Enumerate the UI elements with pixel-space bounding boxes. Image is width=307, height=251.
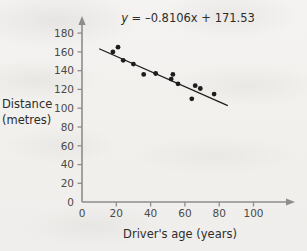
y-axis-title: Distance (metres) [2, 97, 52, 127]
x-axis-title: Driver's age (years) [123, 227, 237, 241]
y-tick-80: 80 [61, 121, 82, 133]
y-tick-label: 160 [54, 46, 74, 58]
x-tick-60: 60 [178, 202, 191, 219]
data-point [169, 77, 174, 82]
y-tick-180: 180 [54, 27, 82, 39]
scatter-chart-figure: 180 160 140 120 100 80 [0, 0, 307, 251]
x-tick-0: 0 [79, 207, 86, 219]
y-tick-0: 0 [67, 196, 74, 208]
trend-line-of-best-fit [99, 49, 228, 106]
data-point [116, 45, 121, 50]
x-tick-40: 40 [144, 202, 157, 219]
x-axis-arrow-icon [286, 198, 295, 205]
y-tick-label: 40 [61, 158, 74, 170]
y-tick-100: 100 [54, 102, 82, 114]
x-tick-80: 80 [213, 202, 226, 219]
y-tick-label: 100 [54, 102, 74, 114]
y-tick-label: 140 [54, 64, 74, 76]
y-tick-40: 40 [61, 158, 82, 170]
x-tick-20: 20 [110, 202, 123, 219]
data-point [189, 96, 194, 101]
equation-variable: y [120, 11, 128, 25]
x-tick-label: 40 [144, 207, 157, 219]
scatter-points-group [111, 45, 217, 101]
regression-equation-annotation: y = –0.8106x + 171.53 [120, 11, 255, 25]
y-axis-title-line1: Distance [2, 97, 52, 111]
data-point [121, 58, 126, 63]
chart-canvas: 180 160 140 120 100 80 [0, 0, 307, 251]
y-tick-60: 60 [61, 140, 82, 152]
data-point [111, 50, 116, 55]
x-tick-label: 0 [79, 207, 86, 219]
y-axis-arrow-icon [78, 16, 85, 25]
data-point [176, 81, 181, 86]
x-tick-100: 100 [243, 202, 263, 219]
y-tick-140: 140 [54, 64, 82, 76]
y-tick-120: 120 [54, 83, 82, 95]
data-point [141, 72, 146, 77]
y-axis-ticks: 180 160 140 120 100 80 [54, 27, 82, 208]
x-axis [82, 198, 295, 205]
y-axis [78, 16, 85, 202]
x-tick-label: 100 [243, 207, 263, 219]
y-tick-label: 180 [54, 27, 74, 39]
data-point [198, 86, 203, 91]
y-tick-20: 20 [61, 177, 82, 189]
data-point [212, 92, 217, 97]
x-axis-ticks: 0 20 40 60 80 100 [79, 202, 264, 219]
y-tick-label: 60 [61, 140, 74, 152]
x-tick-label: 80 [213, 207, 226, 219]
y-tick-label: 120 [54, 83, 74, 95]
y-tick-label: 0 [67, 196, 74, 208]
y-tick-160: 160 [54, 46, 82, 58]
data-point [193, 83, 198, 88]
data-point [153, 71, 158, 76]
x-tick-label: 60 [178, 207, 191, 219]
y-axis-title-line2: (metres) [2, 113, 51, 127]
equation-body: = –0.8106x + 171.53 [128, 11, 255, 25]
y-tick-label: 80 [61, 121, 74, 133]
data-point [131, 62, 136, 67]
x-tick-label: 20 [110, 207, 123, 219]
y-tick-label: 20 [61, 177, 74, 189]
data-point [171, 72, 176, 77]
